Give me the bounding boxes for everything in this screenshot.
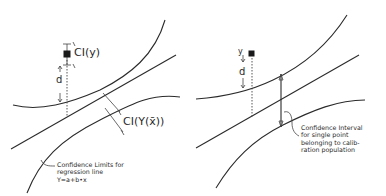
confidence-interval-caption: Confidence Interval for single point bel…: [301, 124, 363, 153]
right-panel: y d Confidence Interval for single point…: [193, 0, 386, 196]
ci-Yx-label: CI(Y(x̄)): [123, 115, 164, 128]
upper-confidence-limit-curve: [13, 20, 165, 107]
left-panel: CI(y) d CI(Y(x̄)) Confidence Limits for …: [0, 0, 193, 196]
y-label-right: y: [238, 47, 243, 56]
confidence-limits-caption: Confidence Limits for regression line Y=…: [57, 161, 124, 183]
right-diagram-graphics: [193, 0, 386, 196]
ci-y-label: CI(y): [74, 46, 100, 59]
caption-leader: [41, 160, 55, 166]
d-label-right: d: [239, 66, 245, 77]
caption-line-3: Y=a+b•x: [57, 176, 124, 183]
caption-line-2: regression line: [57, 168, 124, 175]
regression-line: [11, 55, 176, 149]
caption-line-1: Confidence Interval: [301, 124, 363, 131]
upper-confidence-limit-curve: [196, 15, 347, 99]
ci-Yx-leader-lower: [105, 108, 123, 132]
caption-line-1: Confidence Limits for: [57, 161, 124, 168]
data-point: [64, 51, 71, 58]
caption-line-3: belonging to calib-: [301, 139, 363, 146]
caption-line-2: for single point: [301, 131, 363, 138]
caption-line-4: ration population: [301, 146, 363, 153]
d-label-left: d: [56, 74, 62, 85]
data-point: [249, 51, 255, 57]
